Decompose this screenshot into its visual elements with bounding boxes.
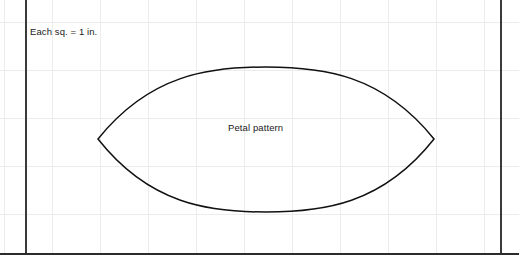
- bottom-margin-rule: [0, 253, 519, 255]
- left-margin-rule: [25, 0, 27, 254]
- grid-scale-note: Each sq. = 1 in.: [30, 26, 97, 38]
- petal-pattern-label: Petal pattern: [228, 122, 283, 134]
- right-margin-rule: [500, 0, 502, 254]
- diagram-canvas: Each sq. = 1 in. Petal pattern: [0, 0, 519, 270]
